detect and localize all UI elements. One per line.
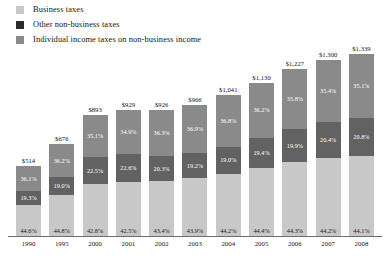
bar-segment-individual-income: 36.2%: [49, 144, 74, 177]
bar-segment-business: 44.2%: [216, 174, 241, 236]
bar-segment-label: 44.2%: [220, 228, 236, 234]
bar-segment-label: 36.1%: [20, 176, 36, 182]
bar-stack: 35.8%19.9%44.3%: [282, 69, 307, 236]
bar-segment-label: 19.4%: [253, 150, 269, 156]
bar-segment-label: 35.4%: [320, 88, 336, 94]
legend-item-label: Business taxes: [33, 5, 84, 15]
bar-segment-label: 19.0%: [220, 157, 236, 163]
bar-segment-individual-income: 35.4%: [316, 60, 341, 122]
bar-segment-label: 36.9%: [187, 126, 203, 132]
legend-item: Business taxes: [16, 3, 316, 17]
bar-segment-label: 22.6%: [120, 165, 136, 171]
bar-stack: 35.4%20.4%44.2%: [316, 60, 341, 236]
bar-segment-other-nonbusiness: 19.2%: [182, 153, 207, 178]
bar-segment-label: 42.5%: [120, 228, 136, 234]
bar-segment-label: 44.8%: [54, 228, 70, 234]
bar-column: $67636.2%19.0%44.8%: [49, 46, 74, 236]
bar-segment-individual-income: 35.1%: [349, 54, 374, 118]
chart-legend: Business taxesOther non-business taxesIn…: [16, 3, 316, 48]
bar-segment-label: 35.1%: [87, 133, 103, 139]
bar-column: $1,33935.1%20.8%44.1%: [349, 46, 374, 236]
x-axis-label: 2002: [149, 240, 174, 247]
bar-total-label: $926: [155, 101, 168, 108]
x-axis-label: 2003: [182, 240, 207, 247]
bar-column: $92636.3%20.3%43.4%: [149, 46, 174, 236]
bar-segment-other-nonbusiness: 20.8%: [349, 118, 374, 156]
bar-total-label: $514: [22, 157, 35, 164]
bar-segment-label: 34.9%: [120, 129, 136, 135]
bar-segment-business: 44.3%: [282, 162, 307, 236]
bar-segment-individual-income: 36.9%: [182, 105, 207, 153]
bar-segment-label: 35.8%: [287, 96, 303, 102]
bar-segment-individual-income: 36.3%: [149, 110, 174, 156]
bar-column: $96636.9%19.2%43.9%: [182, 46, 207, 236]
legend-swatch-business: [16, 6, 24, 14]
bar-segment-business: 42.5%: [116, 182, 141, 236]
bar-stack: 36.3%20.3%43.4%: [149, 110, 174, 236]
bar-segment-individual-income: 34.9%: [116, 110, 141, 154]
bar-segment-label: 44.6%: [20, 228, 36, 234]
x-axis-tick-labels: 1990199520002001200220032004200520062007…: [16, 240, 374, 247]
bar-segment-label: 43.9%: [187, 228, 203, 234]
bar-total-label: $893: [88, 106, 101, 113]
bar-segment-label: 20.3%: [154, 166, 170, 172]
bar-segment-individual-income: 36.2%: [249, 83, 274, 139]
bar-segment-business: 44.6%: [16, 205, 41, 236]
bar-total-label: $929: [122, 101, 135, 108]
x-axis-line: [8, 236, 382, 237]
bar-stack: 36.2%19.4%44.4%: [249, 83, 274, 236]
bar-segment-label: 42.8%: [87, 228, 103, 234]
bar-stack: 35.1%20.8%44.1%: [349, 54, 374, 236]
bar-segment-business: 44.4%: [249, 168, 274, 236]
bar-segment-label: 20.8%: [353, 134, 369, 140]
bar-segment-label: 44.4%: [253, 228, 269, 234]
legend-item-label: Individual income taxes on non-business …: [33, 35, 201, 45]
bar-stack: 36.1%19.3%44.6%: [16, 166, 41, 236]
bar-segment-label: 19.3%: [20, 195, 36, 201]
bar-total-label: $1,339: [352, 45, 370, 52]
bar-column: $89335.1%22.5%42.8%: [83, 46, 108, 236]
bar-segment-other-nonbusiness: 19.3%: [16, 191, 41, 204]
legend-swatch-other-nonbusiness: [16, 21, 24, 29]
bar-segment-other-nonbusiness: 19.9%: [282, 129, 307, 162]
bar-total-label: $966: [188, 96, 201, 103]
bar-segment-other-nonbusiness: 22.5%: [83, 157, 108, 184]
bar-segment-label: 19.2%: [187, 163, 203, 169]
bar-segment-other-nonbusiness: 20.3%: [149, 156, 174, 182]
bar-stack: 36.2%19.0%44.8%: [49, 144, 74, 236]
bar-column: $92934.9%22.6%42.5%: [116, 46, 141, 236]
bar-segment-business: 44.8%: [49, 195, 74, 236]
bar-total-label: $1,227: [286, 60, 304, 67]
x-axis-label: 2001: [116, 240, 141, 247]
bar-total-label: $1,300: [319, 51, 337, 58]
bar-segment-label: 22.5%: [87, 168, 103, 174]
bar-segment-label: 19.0%: [54, 183, 70, 189]
bar-stack: 36.8%19.0%44.2%: [216, 95, 241, 236]
bar-segment-label: 44.1%: [353, 228, 369, 234]
x-axis-label: 2006: [282, 240, 307, 247]
bar-segment-other-nonbusiness: 22.6%: [116, 154, 141, 182]
bar-segment-label: 44.3%: [287, 228, 303, 234]
bar-column: $1,30035.4%20.4%44.2%: [316, 46, 341, 236]
bar-segment-label: 43.4%: [154, 228, 170, 234]
x-axis-label: 2004: [216, 240, 241, 247]
bar-segment-label: 36.8%: [220, 118, 236, 124]
legend-item: Individual income taxes on non-business …: [16, 33, 316, 47]
bar-segment-label: 36.3%: [154, 130, 170, 136]
x-axis-label: 1990: [16, 240, 41, 247]
x-axis-label: 2007: [316, 240, 341, 247]
bar-stack: 35.1%22.5%42.8%: [83, 115, 108, 236]
bar-segment-label: 36.2%: [54, 158, 70, 164]
x-axis-label: 1995: [49, 240, 74, 247]
bar-column: $1,22735.8%19.9%44.3%: [282, 46, 307, 236]
bar-stack: 36.9%19.2%43.9%: [182, 105, 207, 236]
bar-stack: 34.9%22.6%42.5%: [116, 110, 141, 236]
bar-segment-business: 43.9%: [182, 178, 207, 236]
bar-column: $51436.1%19.3%44.6%: [16, 46, 41, 236]
bar-segment-business: 44.2%: [316, 158, 341, 236]
bar-column: $1,04136.8%19.0%44.2%: [216, 46, 241, 236]
bar-segment-label: 44.2%: [320, 228, 336, 234]
bar-segment-other-nonbusiness: 19.0%: [216, 147, 241, 174]
bar-total-label: $1,041: [219, 86, 237, 93]
bar-segment-label: 19.9%: [287, 143, 303, 149]
